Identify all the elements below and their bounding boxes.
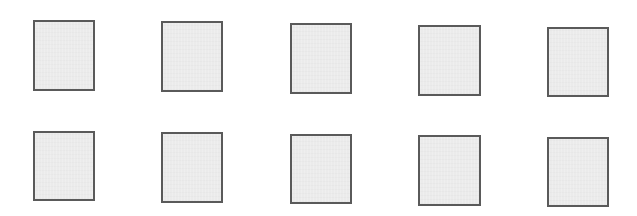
- page-canvas: [0, 0, 637, 216]
- empty-box-r1-c4: [418, 25, 481, 96]
- empty-box-r1-c1: [33, 20, 95, 91]
- empty-box-r2-c3: [290, 134, 352, 204]
- empty-box-r2-c5: [547, 137, 609, 207]
- empty-box-r2-c4: [418, 135, 481, 206]
- empty-box-r2-c1: [33, 131, 95, 201]
- empty-box-r2-c2: [161, 132, 223, 203]
- empty-box-r1-c2: [161, 21, 223, 92]
- empty-box-r1-c5: [547, 27, 609, 97]
- empty-box-r1-c3: [290, 23, 352, 94]
